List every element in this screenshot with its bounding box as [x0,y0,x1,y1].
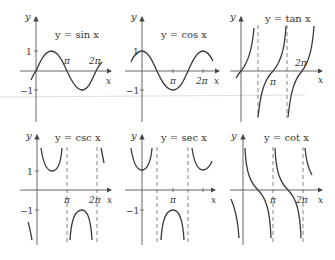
graph-title: y = csc x [54,132,101,143]
tick-2pi: 2π [195,76,209,86]
y-label: y [25,130,32,141]
divider-line [0,95,305,97]
cot-curve [305,148,312,175]
tick-minus-1: −1 [126,206,139,216]
graph-title: y = cos x [160,29,207,40]
tick-pi: π [63,56,71,66]
tick-minus-1: −1 [20,86,33,96]
y-label: y [229,11,236,22]
sec-curve [131,148,152,170]
graph-cos: y y = cos x 1 −1 π 2π x [125,11,219,122]
tick-pi: π [169,76,177,86]
graph-title: y = tan x [264,13,311,24]
tan-curve [236,28,254,78]
graph-title: y = cot x [263,132,309,143]
tick-2pi: 2π [88,56,102,66]
y-label: y [130,130,137,141]
csc-curve [41,148,62,171]
x-label: x [107,195,112,205]
cot-curve [275,148,301,238]
cot-curve [231,199,239,238]
tick-pi: π [269,77,277,87]
graph-sec: y y = sec x −1 π x [125,130,216,245]
x-label: x [214,76,219,86]
x-label: x [211,195,216,205]
tick-1: 1 [133,47,139,57]
tick-2pi: 2π [88,195,102,205]
tick-1: 1 [26,47,32,57]
trig-function-graphs: y y = sin x 1 −1 π 2π x y y = cos x 1 −1… [0,0,335,260]
y-label: y [24,11,31,22]
y-label: y [130,11,137,22]
csc-curve [70,210,92,240]
graph-title: y = sin x [54,29,99,40]
tick-pi: π [169,195,177,205]
graph-sin: y y = sin x 1 −1 π 2π x [20,11,111,122]
cot-curve [245,148,271,238]
sec-curve [192,148,212,170]
csc-curve [101,148,104,163]
graph-cot: y y = cot x π 2π x [230,130,323,245]
tick-minus-1: −1 [20,206,33,216]
x-label: x [318,75,323,85]
graph-title: y = sec x [160,132,207,143]
graph-csc: y y = csc x 1 −1 π 2π x [20,130,112,245]
x-label: x [106,76,111,86]
sec-curve [161,210,184,240]
tick-minus-1: −1 [126,86,139,96]
tan-curve [288,26,314,117]
csc-curve [28,222,32,240]
x-label: x [318,195,323,205]
graph-tan: y y = tan x π 2π x [229,11,323,122]
tick-2pi: 2π [294,58,308,68]
tick-1: 1 [27,167,33,177]
tick-pi: π [63,195,71,205]
tick-2pi: 2π [295,195,309,205]
y-label: y [230,130,237,141]
tick-pi: π [269,195,277,205]
tan-curve [258,26,286,117]
